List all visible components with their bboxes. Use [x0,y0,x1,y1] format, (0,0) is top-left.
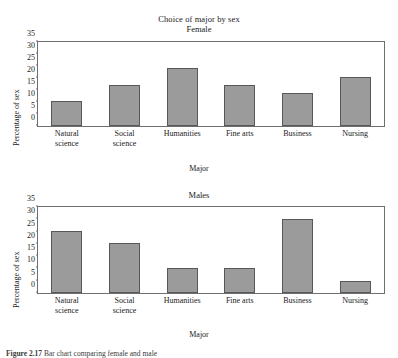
x-tick-labels-female: NaturalscienceSocialscienceHumanitiesFin… [38,126,384,148]
y-tick-label: 20 [27,232,38,240]
bar[interactable] [282,219,313,293]
x-tick-label-line: Natural [38,296,95,306]
x-tick-label-line: Fine arts [211,129,268,139]
figure-main-title: Choice of major by sex [0,14,398,24]
x-tick-label: Nursing [326,293,383,315]
plot-area-males: 05101520253035 NaturalscienceSocialscien… [37,206,385,294]
figure-caption-number: 2.17 [29,349,42,358]
plot-area-female: 05101520253035 NaturalscienceSocialscien… [37,41,385,127]
x-tick-label: Business [269,126,326,148]
bar-slot [211,207,268,293]
y-tick-label: 30 [27,207,38,215]
x-tick-label: Nursing [326,126,383,148]
x-tick-label-line: Social [96,129,153,139]
x-tick-label-line: Nursing [326,129,383,139]
bar-slot [38,42,95,126]
x-tick-label-line: Natural [38,129,95,139]
figure-caption-label: Figure [6,349,27,358]
y-tick-label: 15 [27,244,38,252]
bar-slot [96,42,153,126]
y-tick-label: 10 [27,90,38,98]
figure-caption: Figure 2.17 Bar chart comparing female a… [6,349,398,358]
x-tick-label-line: Fine arts [211,296,268,306]
chart-panel-female: Female Percentage of sex 05101520253035 … [0,24,398,184]
y-tick-label: 30 [27,42,38,50]
bar-slot [269,207,326,293]
x-tick-label: Naturalscience [38,293,95,315]
x-tick-label: Humanities [153,293,210,315]
y-tick-label: 25 [27,220,38,228]
chart-title-males: Males [0,190,398,200]
bar-group-female [38,42,384,126]
bar-slot [96,207,153,293]
x-tick-label: Naturalscience [38,126,95,148]
y-tick-label: 0 [31,114,38,122]
bar[interactable] [224,268,255,293]
y-tick-label: 35 [27,195,38,203]
bar[interactable] [224,85,255,126]
x-tick-label: Business [269,293,326,315]
y-tick-label: 10 [27,256,38,264]
x-tick-label-line: Business [269,296,326,306]
bar[interactable] [340,77,371,126]
bar-slot [153,207,210,293]
bar[interactable] [167,268,198,293]
bar[interactable] [340,281,371,293]
x-tick-label-line: Humanities [153,129,210,139]
x-tick-label: Socialscience [96,293,153,315]
bar[interactable] [109,85,140,126]
bar-group-males [38,207,384,293]
x-axis-label-female: Major [0,164,398,173]
bar[interactable] [51,231,82,293]
x-tick-label-line: science [96,139,153,149]
bar[interactable] [282,93,313,126]
y-tick-label: 25 [27,54,38,62]
x-tick-label: Socialscience [96,126,153,148]
x-tick-label: Fine arts [211,126,268,148]
bar-slot [326,42,383,126]
y-tick-label: 0 [31,281,38,289]
x-tick-label-line: Business [269,129,326,139]
bar-slot [211,42,268,126]
y-tick-label: 20 [27,66,38,74]
x-tick-label: Fine arts [211,293,268,315]
bar-slot [38,207,95,293]
y-tick-label: 15 [27,78,38,86]
x-tick-label-line: Social [96,296,153,306]
x-tick-label-line: Nursing [326,296,383,306]
x-tick-label-line: science [38,139,95,149]
bar-slot [153,42,210,126]
y-tick-label: 5 [31,102,38,110]
y-axis-label-males: Percentage of sex [12,252,21,308]
bar-slot [269,42,326,126]
y-tick-label: 5 [31,269,38,277]
x-axis-label-males: Major [0,330,398,339]
chart-title-female: Female [0,24,398,34]
chart-panel-males: Males Percentage of sex 05101520253035 N… [0,190,398,348]
bar[interactable] [167,68,198,126]
y-tick-label: 35 [27,30,38,38]
x-tick-labels-males: NaturalscienceSocialscienceHumanitiesFin… [38,293,384,315]
bar[interactable] [109,243,140,293]
x-tick-label-line: Humanities [153,296,210,306]
x-tick-label-line: science [38,306,95,316]
bar[interactable] [51,101,82,126]
bar-slot [326,207,383,293]
x-tick-label-line: science [96,306,153,316]
y-axis-label-female: Percentage of sex [12,90,21,146]
x-tick-label: Humanities [153,126,210,148]
figure-caption-text: Bar chart comparing female and male [44,349,157,358]
